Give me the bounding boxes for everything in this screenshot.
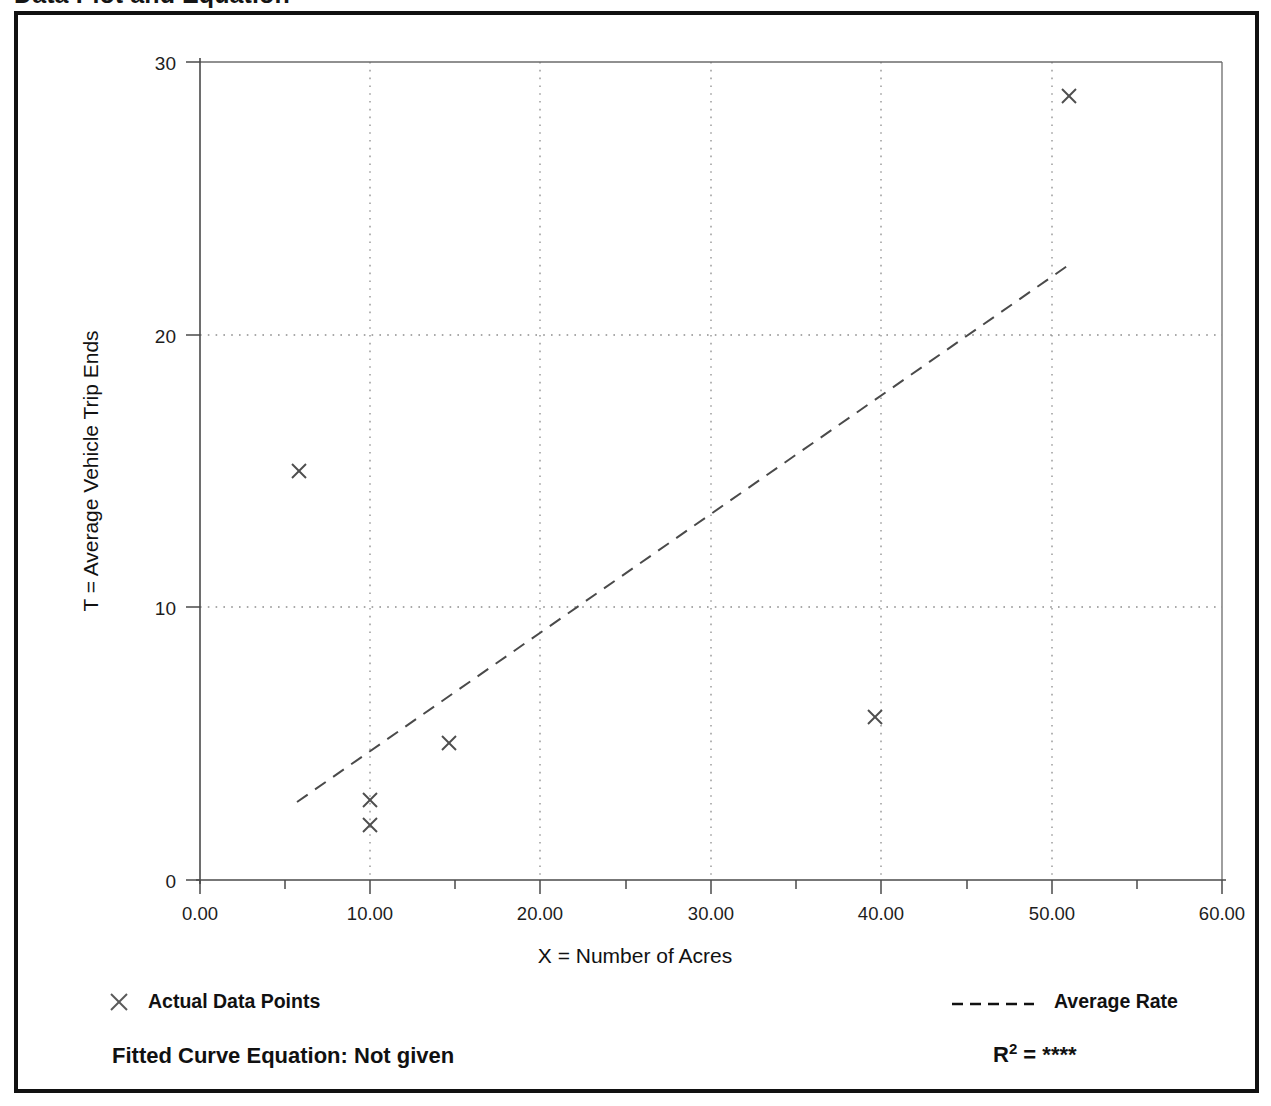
y-tick-label: 20 — [155, 326, 176, 347]
y-axis-title: T = Average Vehicle Trip Ends — [79, 330, 102, 611]
x-tick-label: 60.00 — [1199, 903, 1245, 924]
data-point-markers — [292, 89, 1076, 832]
y-tick-label: 10 — [155, 598, 176, 619]
y-tick-label: 0 — [165, 871, 176, 892]
x-tick-label: 10.00 — [347, 903, 393, 924]
r-squared-equals-sign: = — [1023, 1042, 1036, 1067]
x-axis-title: X = Number of Acres — [538, 944, 732, 967]
scatter-chart: 30 20 10 0 0.00 10.00 20.00 30.00 40.00 … — [0, 0, 1271, 1106]
data-point-marker — [868, 710, 882, 724]
r-squared-value: R2 = **** — [993, 1040, 1077, 1068]
x-tick-labels: 0.00 10.00 20.00 30.00 40.00 50.00 60.00 — [182, 903, 1245, 924]
data-point-marker — [442, 736, 456, 750]
y-gridlines — [200, 335, 1222, 607]
data-point-marker — [292, 464, 306, 478]
average-rate-line — [297, 262, 1073, 802]
legend-item-label: Actual Data Points — [148, 990, 320, 1013]
r-squared-label: R — [993, 1042, 1009, 1067]
legend-item-average-rate: Average Rate — [950, 990, 1178, 1013]
y-tick-labels: 30 20 10 0 — [155, 53, 176, 892]
x-tick-label: 30.00 — [688, 903, 734, 924]
x-gridlines — [370, 62, 1052, 880]
data-point-marker — [1062, 89, 1076, 103]
x-tick-label: 50.00 — [1029, 903, 1075, 924]
fitted-curve-equation: Fitted Curve Equation: Not given — [112, 1043, 454, 1069]
x-tick-label: 40.00 — [858, 903, 904, 924]
legend-item-actual-data-points: Actual Data Points — [108, 990, 320, 1013]
r-squared-stars: **** — [1042, 1042, 1076, 1067]
r-squared-exponent: 2 — [1009, 1040, 1017, 1057]
dashed-line-icon — [950, 996, 1036, 1008]
x-tick-label: 20.00 — [517, 903, 563, 924]
x-marker-icon — [108, 991, 130, 1013]
legend-item-label: Average Rate — [1054, 990, 1178, 1013]
y-tick-label: 30 — [155, 53, 176, 74]
x-tick-label: 0.00 — [182, 903, 218, 924]
page-canvas: Data Plot and Equation — [0, 0, 1271, 1106]
y-axis — [186, 58, 200, 884]
x-axis — [196, 880, 1226, 894]
data-point-marker — [363, 793, 377, 807]
